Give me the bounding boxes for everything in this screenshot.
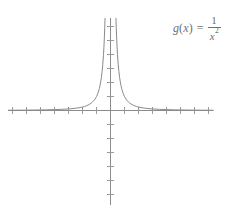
- equals-sign: =: [197, 22, 204, 34]
- denominator-base: x: [210, 29, 215, 41]
- fraction: 1 x2: [208, 15, 221, 42]
- fraction-denominator: x2: [208, 28, 221, 42]
- equation-left-side: g(x): [173, 22, 193, 34]
- function-equation-label: g(x) = 1 x2: [173, 15, 221, 42]
- close-paren: ): [189, 21, 193, 35]
- function-graph-figure: g(x) = 1 x2: [0, 0, 241, 214]
- denominator-exponent: 2: [215, 26, 219, 35]
- fraction-numerator: 1: [209, 15, 219, 27]
- y-axis-group: [107, 18, 114, 205]
- curve-branch-left: [8, 18, 105, 110]
